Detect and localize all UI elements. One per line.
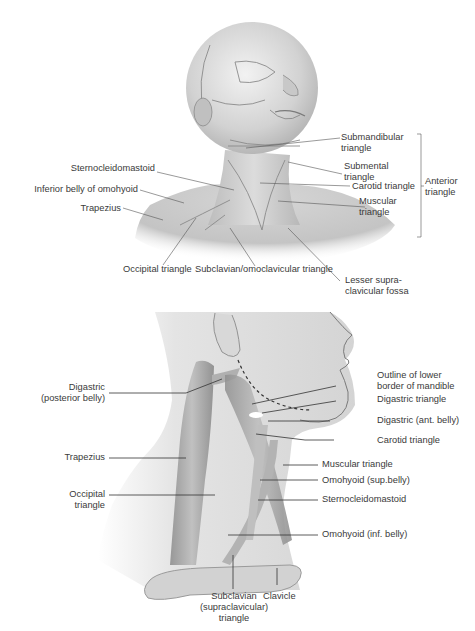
- label-muscular-triangle-bottom: Muscular triangle: [322, 459, 393, 470]
- label-subclavian-omoclavicular: Subclavian/omoclavicular triangle: [195, 264, 333, 275]
- label-omohyoid-inferior: Omohyoid (inf. belly): [322, 529, 407, 540]
- label-digastric-posterior: Digastric (posterior belly): [0, 382, 105, 404]
- label-trapezius-bottom: Trapezius: [0, 452, 105, 463]
- label-omohyoid-superior: Omohyoid (sup.belly): [322, 475, 410, 486]
- label-submental-triangle: Submental triangle: [344, 161, 388, 183]
- label-inferior-belly-omohyoid: Inferior belly of omohyoid: [20, 184, 138, 195]
- label-outline-mandible: Outline of lower border of mandible: [377, 370, 455, 392]
- label-carotid-triangle: Carotid triangle: [352, 181, 415, 192]
- label-sternocleidomastoid: Sternocleidomastoid: [60, 163, 155, 174]
- label-clavicle: Clavicle: [263, 591, 296, 602]
- figure: Submandibular triangle Submental triangl…: [0, 0, 475, 631]
- label-trapezius-top: Trapezius: [60, 203, 121, 214]
- label-occipital-triangle-top: Occipital triangle: [123, 264, 192, 275]
- label-digastric-triangle: Digastric triangle: [377, 394, 446, 405]
- bottom-illustration: [98, 312, 355, 599]
- label-muscular-triangle: Muscular triangle: [359, 196, 397, 218]
- label-sternocleidomastoid-bottom: Sternocleidomastoid: [322, 494, 406, 505]
- label-digastric-anterior: Digastric (ant. belly): [377, 415, 459, 426]
- label-lesser-supraclavicular-fossa: Lesser supra- clavicular fossa: [345, 275, 409, 297]
- label-occipital-triangle-bottom: Occipital triangle: [0, 489, 105, 511]
- label-anterior-triangle: Anterior triangle: [425, 176, 458, 198]
- label-carotid-triangle-bottom: Carotid triangle: [377, 435, 440, 446]
- label-submandibular-triangle: Submandibular triangle: [341, 132, 404, 154]
